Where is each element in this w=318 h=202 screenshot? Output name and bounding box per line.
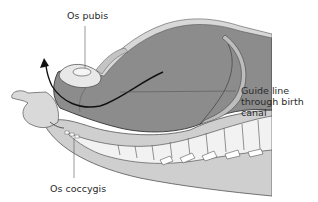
- guide-arrow-head: [40, 58, 49, 68]
- pubis-symphysis: [73, 68, 91, 76]
- label-os-pubis: Os pubis: [67, 10, 108, 21]
- label-os-coccygis: Os coccygis: [50, 183, 106, 194]
- label-guide-line: Guide line through birth canal: [241, 85, 304, 118]
- perineal-tissue: [12, 91, 59, 128]
